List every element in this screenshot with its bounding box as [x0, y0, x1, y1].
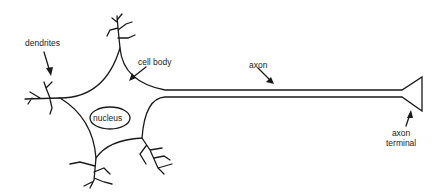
- label-cell-body: cell body: [138, 57, 172, 67]
- label-axon-terminal-line2: terminal: [386, 138, 416, 148]
- neuron-diagram: [0, 0, 447, 196]
- label-dendrites: dendrites: [25, 38, 60, 48]
- label-axon-terminal: axon terminal: [386, 128, 416, 148]
- label-axon-terminal-line1: axon: [386, 128, 416, 138]
- label-axon: axon: [249, 60, 267, 70]
- label-nucleus: nucleus: [93, 113, 122, 123]
- cell-body-outline: [60, 48, 422, 158]
